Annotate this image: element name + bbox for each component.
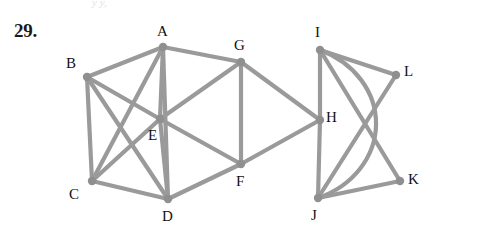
graph-edge-AG [163, 47, 241, 62]
vertex-label-L: L [404, 64, 413, 79]
graph-edge-EG [160, 62, 241, 119]
graph-vertex-I [316, 46, 324, 54]
graph-vertex-L [392, 71, 400, 79]
graph-vertex-D [164, 195, 172, 203]
graph-edge-BE [87, 77, 160, 119]
graph-edge-GH [241, 62, 320, 120]
vertex-label-F: F [236, 174, 244, 189]
graph-vertex-C [88, 177, 96, 185]
graph-vertex-E [156, 115, 164, 123]
graph-vertex-F [237, 160, 245, 168]
vertex-label-J: J [311, 208, 317, 223]
graph-edge-BC [87, 77, 92, 181]
graph-edge-DF [168, 164, 241, 199]
graph-vertex-J [314, 194, 322, 202]
vertex-label-D: D [162, 209, 173, 224]
vertex-label-K: K [408, 172, 419, 187]
graph-vertex-A [159, 43, 167, 51]
figure-root: y y, 29. ABCDEFGHIJKL [0, 0, 477, 236]
graph-edge-EF [160, 119, 241, 164]
graph-edge-FH [241, 120, 320, 164]
vertex-label-G: G [234, 38, 245, 53]
graph-vertex-H [316, 116, 324, 124]
vertex-label-B: B [66, 56, 76, 71]
vertex-label-C: C [69, 187, 79, 202]
vertex-label-A: A [157, 24, 168, 39]
graph-vertex-K [396, 177, 404, 185]
graph-edge-HJ [318, 120, 320, 198]
vertex-label-H: H [326, 110, 337, 125]
graph-vertex-B [83, 73, 91, 81]
graph-edge-JL [318, 75, 396, 198]
vertex-label-I: I [315, 25, 320, 40]
vertex-label-E: E [148, 128, 157, 143]
graph-vertex-G [237, 58, 245, 66]
graph-edge-JK [318, 181, 400, 198]
